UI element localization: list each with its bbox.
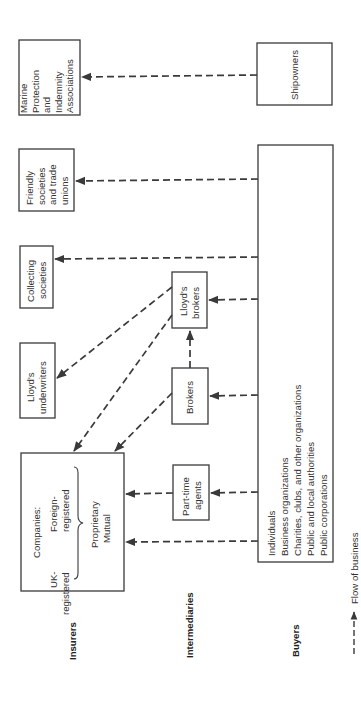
buyer-item: Business organizations	[279, 457, 290, 556]
legend: Flow of business	[349, 532, 360, 654]
lloyds-brokers-box: Lloyd's brokers	[172, 272, 207, 328]
shipowners-box: Shipowners	[257, 43, 332, 105]
legend-label: Flow of business	[349, 532, 360, 604]
collecting-societies-line: societies	[37, 261, 48, 299]
lloyds-brokers-line: brokers	[190, 287, 201, 319]
lloyds-brokers-line: Lloyd's	[178, 286, 189, 316]
arrow-buyers-to-collecting-societies	[55, 257, 258, 259]
part-time-agents-line: Part-time	[180, 477, 191, 516]
companies-box: Companies: UK- registered Foreign- regis…	[21, 453, 124, 615]
marine-pi-line: Protection	[30, 70, 41, 113]
arrow-agents-to-companies	[126, 493, 173, 494]
friendly-societies-line: Friendly	[24, 171, 35, 205]
arrow-buyers-to-part-time-agents	[211, 492, 258, 493]
buyer-item: Public corporations	[318, 474, 329, 556]
lane-label-insurers: Insurers	[67, 622, 78, 660]
marine-pi-line: Indemnity	[53, 71, 64, 113]
arrow-buyers-to-brokers	[210, 395, 258, 396]
marine-pi-line: Associations	[64, 59, 75, 113]
collecting-societies-line: Collecting	[25, 260, 36, 302]
companies-title: Companies:	[31, 507, 42, 558]
arrow-lloyds-brokers-to-companies	[74, 315, 172, 451]
part-time-agents-line: agents	[192, 481, 203, 510]
svg-text:Foreign- registered: Foreign- registered	[48, 489, 71, 532]
arrow-buyers-to-lloyds-brokers	[209, 299, 258, 300]
lane-label-intermediaries: Intermediaries	[184, 592, 195, 658]
proprietary-label: Proprietary	[89, 501, 100, 548]
arrow-buyers-to-friendly-societies	[76, 179, 258, 181]
svg-text:Collecting societies: Collecting societies	[25, 257, 48, 302]
arrow-buyers-to-companies	[126, 541, 258, 542]
foreign-registered-line: Foreign-	[48, 496, 59, 532]
brokers-label: Brokers	[184, 381, 195, 414]
arrow-brokers-to-companies	[115, 393, 172, 451]
friendly-societies-line: societies	[36, 167, 47, 205]
mutual-label: Mutual	[101, 514, 112, 543]
friendly-societies-line: unions	[59, 177, 70, 205]
marine-pi-line: and	[41, 97, 52, 113]
buyers-box: Individuals Business organizations Chari…	[258, 145, 333, 562]
uk-registered-line: registered	[60, 572, 71, 615]
uk-registered-line: UK-	[48, 571, 59, 588]
foreign-registered-line: registered	[60, 489, 71, 532]
arrow-lloyds-brokers-to-underwriters	[57, 287, 172, 378]
friendly-societies-line: and trade	[47, 164, 58, 205]
lloyds-underwriters-line: Lloyd's	[25, 372, 36, 402]
lloyds-underwriters-box: Lloyd's underwriters	[20, 343, 55, 418]
brokers-box: Brokers	[172, 368, 208, 424]
buyer-item: Individuals	[266, 510, 277, 556]
svg-text:Lloyd's brokers: Lloyd's brokers	[178, 284, 201, 319]
buyer-item: Public and local authorities	[305, 442, 316, 556]
buyer-item: Charities, clubs, and other organization…	[292, 385, 303, 556]
lloyds-underwriters-line: underwriters	[37, 361, 48, 414]
part-time-agents-box: Part-time agents	[173, 465, 209, 520]
arrow-shipowners-to-marine-pi	[82, 75, 257, 77]
marine-pi-line: Marine	[18, 84, 29, 113]
insurance-market-diagram: Marine Protection and Indemnity Associat…	[0, 0, 361, 712]
lane-label-buyers: Buyers	[290, 624, 301, 657]
friendly-societies-box: Friendly societies and trade unions	[19, 149, 74, 211]
svg-text:UK- registered: UK- registered	[48, 569, 71, 615]
shipowners-label: Shipowners	[289, 50, 300, 100]
marine-pi-associations-box: Marine Protection and Indemnity Associat…	[18, 40, 80, 115]
collecting-societies-box: Collecting societies	[20, 246, 53, 308]
